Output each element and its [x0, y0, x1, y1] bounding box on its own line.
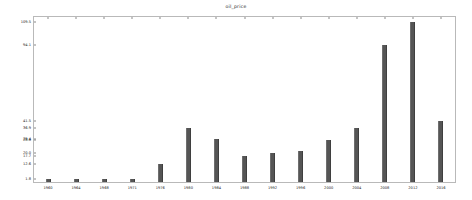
bar-slot — [90, 17, 118, 182]
bar-slot — [202, 17, 230, 182]
bar[interactable] — [382, 45, 387, 182]
bar[interactable] — [298, 151, 303, 182]
bar[interactable] — [158, 164, 163, 182]
bar[interactable] — [410, 22, 415, 182]
x-tick-mark — [104, 17, 105, 19]
bar-slot — [427, 17, 455, 182]
x-tick-label: 1968 — [100, 182, 109, 190]
y-tick-mark — [34, 121, 36, 122]
plot-area: 1960196419681971197619801984198819921996… — [33, 16, 456, 183]
bar[interactable] — [214, 139, 219, 182]
y-tick-label: 36.9 — [23, 126, 34, 130]
x-tick-label: 2004 — [352, 182, 361, 190]
y-tick-mark — [34, 128, 36, 129]
y-tick-label: 29.4 — [23, 137, 34, 141]
y-tick-label: 20.0 — [23, 151, 34, 155]
x-tick-mark — [328, 17, 329, 19]
x-tick-label: 1960 — [43, 182, 52, 190]
y-tick-label: 94.1 — [23, 43, 34, 47]
y-tick-mark — [34, 139, 36, 140]
x-tick-label: 1996 — [296, 182, 305, 190]
x-tick-mark — [440, 17, 441, 19]
bar-slot — [118, 17, 146, 182]
y-tick-mark — [34, 152, 36, 153]
bar-slot — [230, 17, 258, 182]
bar-slot — [259, 17, 287, 182]
x-tick-label: 1992 — [268, 182, 277, 190]
x-tick-mark — [76, 17, 77, 19]
bar-slot — [399, 17, 427, 182]
bar-slot — [174, 17, 202, 182]
x-tick-label: 2012 — [408, 182, 417, 190]
x-tick-label: 1964 — [72, 182, 81, 190]
bar[interactable] — [186, 128, 191, 182]
x-tick-mark — [272, 17, 273, 19]
x-tick-mark — [384, 17, 385, 19]
y-tick-mark — [34, 139, 36, 140]
bar-slot — [62, 17, 90, 182]
y-tick-mark — [34, 179, 36, 180]
bar[interactable] — [326, 140, 331, 182]
x-tick-label: 1984 — [212, 182, 221, 190]
x-tick-label: 2000 — [324, 182, 333, 190]
bar-slot — [287, 17, 315, 182]
x-tick-mark — [412, 17, 413, 19]
x-tick-mark — [300, 17, 301, 19]
x-tick-label: 1980 — [184, 182, 193, 190]
y-tick-label: 41.5 — [23, 119, 34, 123]
y-tick-mark — [34, 44, 36, 45]
x-tick-mark — [160, 17, 161, 19]
x-tick-mark — [132, 17, 133, 19]
x-tick-label: 1971 — [128, 182, 137, 190]
x-tick-mark — [48, 17, 49, 19]
chart-title: oil_price — [0, 4, 472, 10]
bar-slot — [343, 17, 371, 182]
bar-slot — [315, 17, 343, 182]
x-tick-label: 2008 — [380, 182, 389, 190]
bar[interactable] — [270, 153, 275, 182]
y-tick-mark — [34, 156, 36, 157]
y-tick-label: 109.5 — [21, 20, 34, 24]
bar[interactable] — [354, 128, 359, 182]
figure-canvas: oil_price 196019641968197119761980198419… — [0, 0, 472, 200]
bar-slot — [146, 17, 174, 182]
y-tick-label: 12.6 — [23, 162, 34, 166]
x-tick-label: 1976 — [156, 182, 165, 190]
bars-layer — [34, 17, 455, 182]
y-tick-label: 1.8 — [25, 177, 34, 181]
y-tick-mark — [34, 22, 36, 23]
x-tick-mark — [244, 17, 245, 19]
x-tick-mark — [188, 17, 189, 19]
bar[interactable] — [438, 121, 443, 182]
x-tick-mark — [356, 17, 357, 19]
x-tick-mark — [216, 17, 217, 19]
x-tick-label: 2016 — [436, 182, 445, 190]
bar[interactable] — [242, 156, 247, 182]
bar-slot — [371, 17, 399, 182]
bar-slot — [34, 17, 62, 182]
y-tick-mark — [34, 163, 36, 164]
x-tick-label: 1988 — [240, 182, 249, 190]
